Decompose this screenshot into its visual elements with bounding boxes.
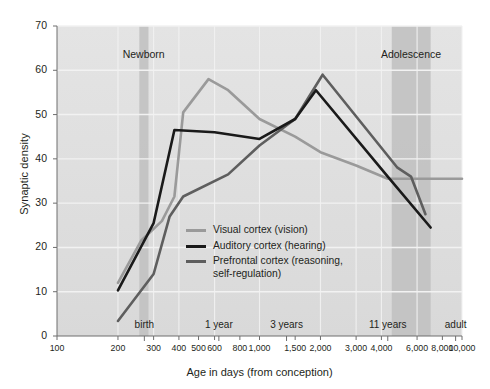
y-axis-tick-label: 10 <box>17 285 47 297</box>
legend-label: Visual cortex (vision) <box>213 224 308 237</box>
age-marker-label: 3 years <box>270 319 303 330</box>
age-marker-label: adult <box>445 319 467 330</box>
chart-legend: Visual cortex (vision)Auditory cortex (h… <box>186 224 343 283</box>
age-marker-label: birth <box>135 319 154 330</box>
legend-label: Auditory cortex (hearing) <box>213 240 326 253</box>
x-axis-tick-label: 4,000 <box>370 343 392 353</box>
x-axis-tick-label: 10,000 <box>449 343 476 353</box>
legend-color-swatch <box>186 245 206 248</box>
y-axis-tick-label: 30 <box>17 196 47 208</box>
x-axis-tick-label: 600 <box>207 343 222 353</box>
legend-color-swatch <box>186 260 206 263</box>
x-axis-title: Age in days (from conception) <box>57 366 462 378</box>
age-marker-label: 11 years <box>369 319 407 330</box>
x-axis-tick-label: 6,000 <box>406 343 428 353</box>
legend-item: Visual cortex (vision) <box>186 224 343 237</box>
x-axis-tick-label: 1,000 <box>248 343 270 353</box>
legend-item: Prefrontal cortex (reasoning, self-regul… <box>186 255 343 280</box>
x-axis-tick-label: 400 <box>172 343 187 353</box>
x-axis-tick-label: 300 <box>146 343 161 353</box>
x-axis-tick-label: 1,500 <box>284 343 306 353</box>
y-axis-tick-label: 0 <box>17 329 47 341</box>
synaptic-density-chart: Synaptic density Age in days (from conce… <box>0 0 490 389</box>
y-axis-tick-label: 40 <box>17 152 47 164</box>
period-band-label: Adolescence <box>381 48 441 60</box>
y-axis-tick-label: 60 <box>17 63 47 75</box>
x-axis-tick-label: 200 <box>111 343 126 353</box>
legend-item: Auditory cortex (hearing) <box>186 240 343 253</box>
x-axis-tick-label: 100 <box>50 343 65 353</box>
x-axis-tick-label: 3,000 <box>345 343 367 353</box>
y-axis-tick-label: 70 <box>17 19 47 31</box>
period-band <box>392 26 431 336</box>
x-axis-tick-label: 500 <box>191 343 206 353</box>
x-axis-tick-label: 800 <box>233 343 248 353</box>
age-marker-label: 1 year <box>205 319 233 330</box>
legend-color-swatch <box>186 229 206 232</box>
y-axis-tick-label: 50 <box>17 108 47 120</box>
legend-label: Prefrontal cortex (reasoning, self-regul… <box>213 255 343 280</box>
period-band-label: Newborn <box>123 48 165 60</box>
y-axis-title: Synaptic density <box>18 104 30 244</box>
y-axis-tick-label: 20 <box>17 240 47 252</box>
x-axis-tick-label: 2,000 <box>309 343 331 353</box>
